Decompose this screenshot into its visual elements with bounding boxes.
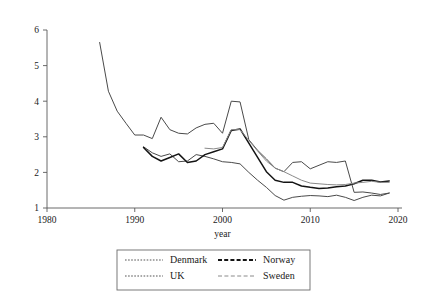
x-tick-label: 2000 <box>213 215 232 225</box>
y-tick-label: 3 <box>34 132 39 142</box>
x-tick-label: 1990 <box>125 215 144 225</box>
x-tick-label: 2020 <box>389 215 408 225</box>
x-axis-title-text: year <box>214 229 231 239</box>
x-tick-label: 2010 <box>301 215 320 225</box>
legend-label-denmark: Denmark <box>170 254 207 265</box>
legend-label-uk: UK <box>170 270 185 281</box>
legend-label-sweden: Sweden <box>263 270 295 281</box>
x-tick-label: 1980 <box>38 215 57 225</box>
series-line-sweden <box>205 130 389 185</box>
y-tick-label: 5 <box>34 61 39 71</box>
y-tick-label: 2 <box>34 168 39 178</box>
x-axis-title: year <box>214 229 231 239</box>
line-chart: 12345619801990200020102020 year DenmarkN… <box>0 0 426 301</box>
chart-legend: DenmarkNorwayUKSweden <box>117 250 310 290</box>
y-tick-label: 4 <box>34 97 39 107</box>
legend-label-norway: Norway <box>263 254 295 265</box>
chart-container: 12345619801990200020102020 year DenmarkN… <box>0 0 426 301</box>
y-tick-label: 1 <box>34 203 39 213</box>
chart-axes: 12345619801990200020102020 <box>34 25 408 225</box>
y-tick-label: 6 <box>34 25 39 35</box>
chart-series <box>100 42 390 200</box>
series-line-uk <box>100 42 390 194</box>
